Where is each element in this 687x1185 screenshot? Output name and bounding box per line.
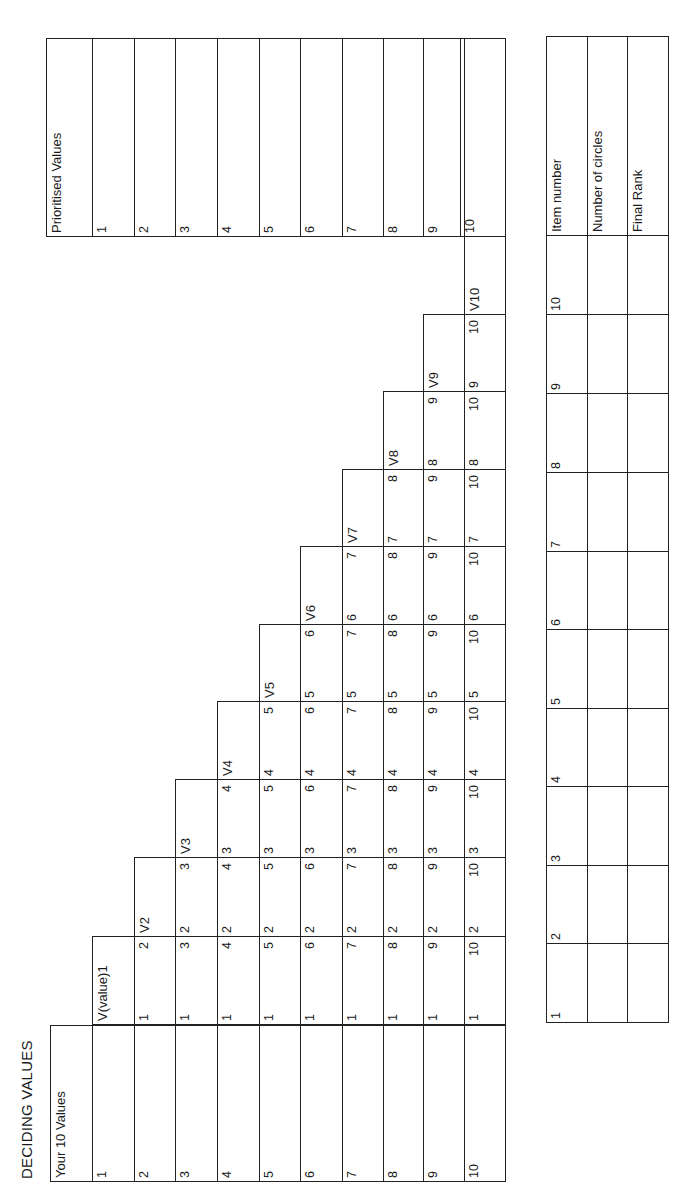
circle-count-field[interactable] xyxy=(587,393,628,473)
prioritised-value-field[interactable]: 4 xyxy=(217,38,260,237)
comparison-pair-cell[interactable]: 34 xyxy=(217,779,260,858)
comparison-pair-cell[interactable]: 47 xyxy=(342,701,384,780)
value-entry-field[interactable]: 5 xyxy=(259,1025,301,1182)
comparison-pair-cell[interactable]: 24 xyxy=(217,857,260,937)
circle-count-field[interactable] xyxy=(587,472,628,552)
value-entry-field[interactable]: 2 xyxy=(134,1025,176,1182)
prioritised-rank-number: 9 xyxy=(427,226,440,233)
circle-count-field[interactable] xyxy=(587,551,628,630)
comparison-pair-cell[interactable]: 410 xyxy=(464,701,506,780)
circle-count-field[interactable] xyxy=(587,786,628,866)
value-entry-field[interactable]: 7 xyxy=(342,1025,384,1182)
prioritised-value-field[interactable]: 9 xyxy=(423,38,465,237)
value-entry-field[interactable]: 8 xyxy=(383,1025,424,1182)
pair-option-right: 7 xyxy=(346,863,359,870)
final-rank-field[interactable] xyxy=(627,393,669,473)
comparison-pair-cell[interactable]: 39 xyxy=(423,779,465,858)
comparison-pair-cell[interactable]: 57 xyxy=(342,624,384,702)
value-entry-field[interactable]: 9 xyxy=(423,1025,465,1182)
comparison-pair-cell[interactable]: 58 xyxy=(383,624,424,702)
comparison-pair-cell[interactable]: 29 xyxy=(423,857,465,937)
prioritised-value-field[interactable]: 6 xyxy=(300,38,343,237)
comparison-header-label: V5 xyxy=(263,682,276,698)
comparison-pair-cell[interactable]: 67 xyxy=(342,546,384,625)
comparison-pair-cell[interactable]: 910 xyxy=(464,314,506,392)
comparison-pair-cell[interactable]: 69 xyxy=(423,546,465,625)
comparison-pair-cell[interactable]: 46 xyxy=(300,701,343,780)
value-row-number: 4 xyxy=(221,1171,234,1178)
circle-count-field[interactable] xyxy=(587,314,628,394)
item-number-label: 8 xyxy=(550,462,563,469)
final-rank-field[interactable] xyxy=(627,472,669,552)
comparison-pair-cell[interactable]: 26 xyxy=(300,857,343,937)
pair-option-left: 1 xyxy=(427,1014,440,1021)
comparison-pair-cell[interactable]: 38 xyxy=(383,779,424,858)
comparison-pair-cell[interactable]: 27 xyxy=(342,857,384,937)
prioritised-value-field[interactable]: 5 xyxy=(259,38,301,237)
prioritised-value-field[interactable]: 7 xyxy=(342,38,384,237)
comparison-pair-cell[interactable]: 18 xyxy=(383,936,424,1025)
prioritised-value-field[interactable]: 3 xyxy=(175,38,218,237)
comparison-pair-cell[interactable]: 37 xyxy=(342,779,384,858)
comparison-pair-cell[interactable]: 710 xyxy=(464,469,506,547)
circle-count-field[interactable] xyxy=(587,235,628,315)
comparison-pair-cell[interactable]: 56 xyxy=(300,624,343,702)
final-rank-field[interactable] xyxy=(627,551,669,630)
final-rank-field[interactable] xyxy=(627,235,669,315)
comparison-pair-cell[interactable]: 610 xyxy=(464,546,506,625)
item-number-cell: 7 xyxy=(546,472,588,552)
comparison-pair-cell[interactable]: 78 xyxy=(383,469,424,547)
prioritised-value-field[interactable]: 8 xyxy=(383,38,424,237)
comparison-pair-cell[interactable]: 25 xyxy=(259,857,301,937)
comparison-pair-cell[interactable]: 14 xyxy=(217,936,260,1025)
comparison-pair-cell[interactable]: 210 xyxy=(464,857,506,937)
comparison-pair-cell[interactable]: 110 xyxy=(464,936,506,1025)
comparison-pair-cell[interactable]: 310 xyxy=(464,779,506,858)
comparison-pair-cell[interactable]: 59 xyxy=(423,624,465,702)
pair-option-right: 6 xyxy=(304,942,317,949)
item-number-cell: 10 xyxy=(546,235,588,315)
comparison-pair-cell[interactable]: 510 xyxy=(464,624,506,702)
pair-option-right: 10 xyxy=(468,552,481,566)
comparison-pair-cell[interactable]: 36 xyxy=(300,779,343,858)
comparison-pair-cell[interactable]: 79 xyxy=(423,469,465,547)
comparison-pair-cell[interactable]: 35 xyxy=(259,779,301,858)
circle-count-field[interactable] xyxy=(587,865,628,944)
comparison-pair-cell[interactable]: 16 xyxy=(300,936,343,1025)
value-entry-field[interactable]: 6 xyxy=(300,1025,343,1182)
comparison-column-header: V(value)1 xyxy=(92,936,135,1025)
value-entry-field[interactable]: 3 xyxy=(175,1025,218,1182)
comparison-pair-cell[interactable]: 89 xyxy=(423,391,465,470)
circle-count-field[interactable] xyxy=(587,629,628,709)
value-entry-field[interactable]: 1 xyxy=(92,1025,135,1182)
prioritised-value-field[interactable]: 1 xyxy=(92,38,135,237)
comparison-pair-cell[interactable]: 19 xyxy=(423,936,465,1025)
prioritised-value-field[interactable]: 10 xyxy=(460,38,506,237)
comparison-pair-cell[interactable]: 13 xyxy=(175,936,218,1025)
scoring-row-header: Final Rank xyxy=(627,36,669,236)
circle-count-field[interactable] xyxy=(587,943,628,1023)
final-rank-field[interactable] xyxy=(627,786,669,866)
value-entry-field[interactable]: 4 xyxy=(217,1025,260,1182)
comparison-pair-cell[interactable]: 49 xyxy=(423,701,465,780)
comparison-pair-cell[interactable]: 15 xyxy=(259,936,301,1025)
comparison-pair-cell[interactable]: 12 xyxy=(134,936,176,1025)
pair-option-right: 4 xyxy=(221,863,234,870)
prioritised-value-field[interactable]: 2 xyxy=(134,38,176,237)
pair-option-left: 4 xyxy=(387,769,400,776)
comparison-pair-cell[interactable]: 17 xyxy=(342,936,384,1025)
comparison-pair-cell[interactable]: 68 xyxy=(383,546,424,625)
comparison-pair-cell[interactable]: 45 xyxy=(259,701,301,780)
final-rank-field[interactable] xyxy=(627,865,669,944)
comparison-pair-cell[interactable]: 48 xyxy=(383,701,424,780)
final-rank-field[interactable] xyxy=(627,708,669,787)
comparison-pair-cell[interactable]: 28 xyxy=(383,857,424,937)
final-rank-field[interactable] xyxy=(627,629,669,709)
pair-option-right: 8 xyxy=(387,475,400,482)
final-rank-field[interactable] xyxy=(627,943,669,1023)
final-rank-field[interactable] xyxy=(627,314,669,394)
value-entry-field[interactable]: 10 xyxy=(464,1025,506,1182)
comparison-pair-cell[interactable]: 810 xyxy=(464,391,506,470)
circle-count-field[interactable] xyxy=(587,708,628,787)
comparison-pair-cell[interactable]: 23 xyxy=(175,857,218,937)
